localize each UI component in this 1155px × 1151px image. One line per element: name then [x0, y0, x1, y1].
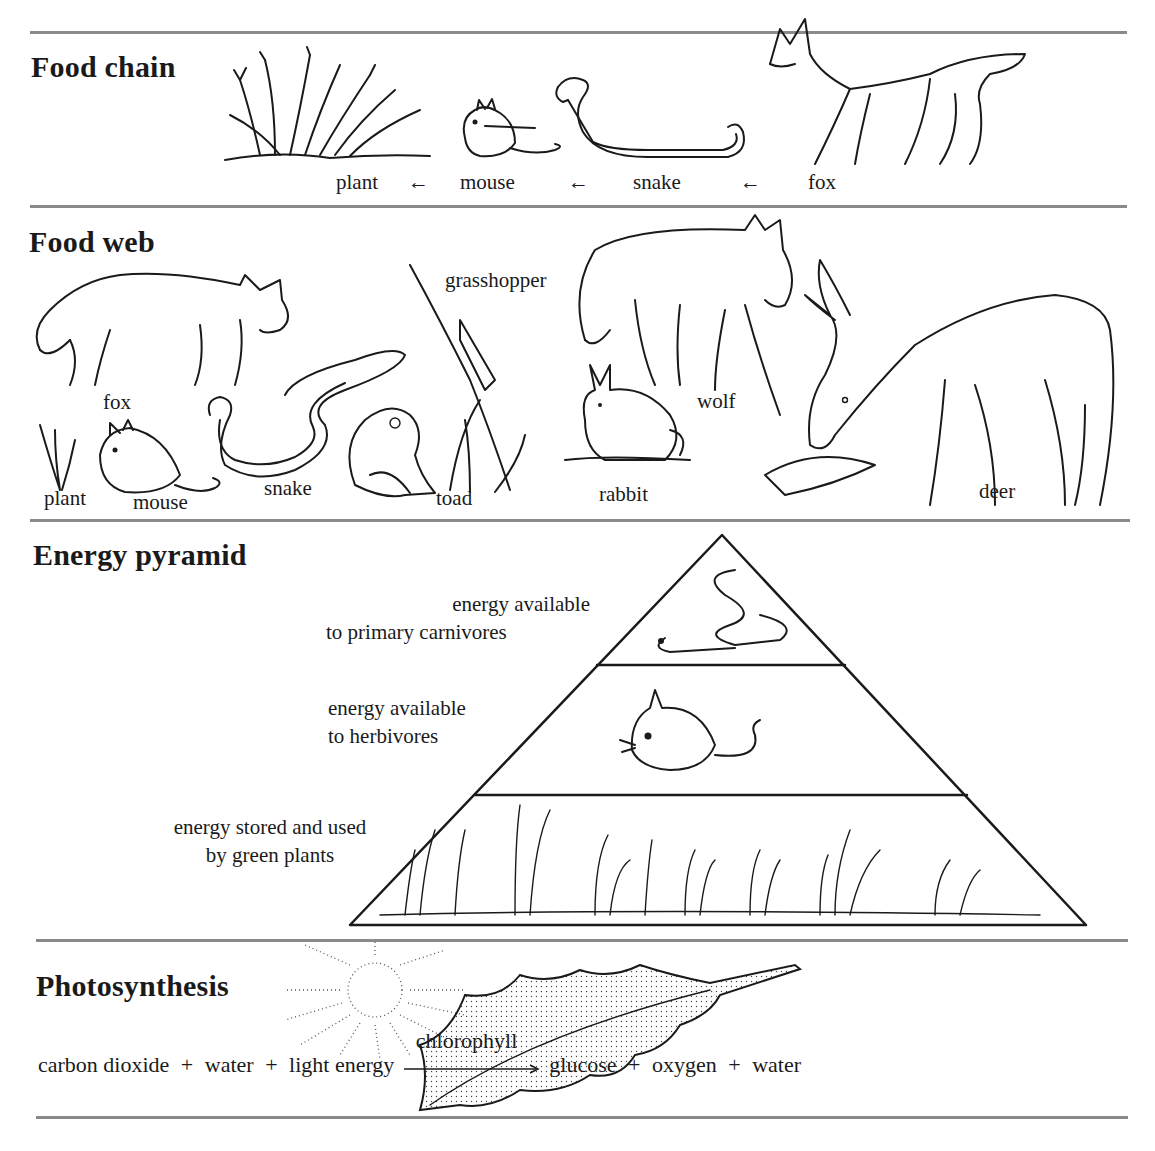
photosynthesis-equation: carbon dioxide + water + light energy ch… [38, 1052, 801, 1080]
plus-sign: + [728, 1052, 740, 1077]
pyramid-level-3-line2: by green plants [146, 841, 394, 869]
chain-fox-label: fox [808, 170, 836, 195]
web-wolf-label: wolf [697, 389, 736, 414]
web-rabbit-label: rabbit [599, 482, 648, 507]
pyramid-level-1-line1: energy available [326, 590, 590, 618]
energy-pyramid-heading: Energy pyramid [33, 538, 247, 572]
divider-bottom [36, 1116, 1128, 1119]
photosynthesis-heading: Photosynthesis [36, 969, 229, 1003]
product-glucose: glucose [549, 1052, 616, 1077]
pyramid-mouse-icon [620, 690, 760, 770]
web-mouse-label: mouse [133, 490, 188, 515]
rabbit-illustration [565, 360, 695, 470]
reactant-light-energy: light energy [289, 1052, 394, 1077]
pyramid-level-3-label: energy stored and used by green plants [146, 813, 394, 869]
pyramid-level-2-line2: to herbivores [328, 722, 466, 750]
product-water: water [752, 1052, 801, 1077]
chain-arrow-1: ← [408, 170, 429, 195]
web-grasshopper-label: grasshopper [445, 268, 546, 293]
pyramid-level-1-line2: to primary carnivores [326, 618, 507, 646]
pyramid-level-2-label: energy available to herbivores [328, 694, 466, 750]
web-fox-label: fox [103, 390, 131, 415]
chain-snake-label: snake [633, 170, 681, 195]
chain-arrow-3: ← [740, 170, 761, 195]
pyramid-level-2-line1: energy available [328, 694, 466, 722]
food-web-heading: Food web [29, 225, 155, 259]
plus-sign: + [181, 1052, 193, 1077]
web-plant-label: plant [44, 486, 86, 511]
deer-illustration [755, 205, 1125, 515]
web-deer-label: deer [979, 479, 1015, 504]
reaction-arrow: chlorophyll [402, 1054, 542, 1080]
chain-plant-label: plant [336, 170, 378, 195]
pyramid-level-3-line1: energy stored and used [146, 813, 394, 841]
plus-sign: + [265, 1052, 277, 1077]
catalyst-chlorophyll: chlorophyll [416, 1028, 517, 1054]
pyramid-grass-icon [380, 805, 1040, 915]
fox-illustration [760, 14, 1040, 174]
plus-sign: + [628, 1052, 640, 1077]
reactant-water: water [205, 1052, 254, 1077]
web-toad-label: toad [436, 486, 472, 511]
chain-arrow-2: ← [568, 170, 589, 195]
chain-mouse-label: mouse [460, 170, 515, 195]
web-snake-label: snake [264, 476, 312, 501]
right-arrow-icon [402, 1064, 542, 1074]
divider-pyramid-photo [36, 939, 1128, 942]
web-mouse-illustration [85, 420, 225, 500]
pyramid-level-1-label: energy available [326, 590, 590, 618]
pyramid-level-1-label-2: to primary carnivores [326, 618, 507, 646]
divider-web-pyramid [30, 519, 1130, 522]
product-oxygen: oxygen [652, 1052, 717, 1077]
snake-illustration [548, 72, 768, 172]
food-chain-heading: Food chain [31, 50, 176, 84]
reactant-carbon-dioxide: carbon dioxide [38, 1052, 169, 1077]
